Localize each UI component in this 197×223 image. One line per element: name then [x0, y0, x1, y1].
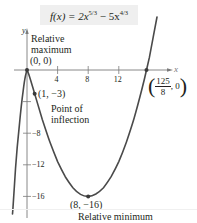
inflection-point [33, 92, 37, 96]
x-intercept-point [145, 68, 149, 72]
right-paren: ) [180, 73, 187, 98]
relative-maximum-coords: (0, 0) [30, 55, 52, 66]
x-axis-label: x [174, 64, 178, 75]
inflection-coords: (1, −3) [38, 88, 65, 99]
relative-minimum-point [86, 194, 90, 198]
inflection-label-line1: Point of [51, 103, 83, 114]
relative-maximum-label-line2: maximum [31, 44, 72, 55]
fraction-denominator: 8 [161, 87, 166, 97]
relative-minimum-label: Relative minimum [78, 211, 153, 222]
fraction: 1258 [155, 76, 171, 97]
plot-area [0, 0, 197, 223]
x-axis-arrow-icon [167, 68, 173, 71]
y-tick-label-minus-16: −16 [32, 192, 45, 201]
x-tick-label-8: 8 [85, 75, 89, 84]
relative-maximum-label-line1: Relative [31, 33, 64, 44]
x-intercept-label: (1258, 0) [148, 75, 187, 97]
y-tick-label-minus-12: −12 [32, 160, 45, 169]
inflection-label-line2: inflection [51, 114, 89, 125]
left-paren: ( [148, 73, 155, 98]
divider [0, 209, 197, 210]
relative-maximum-point [25, 68, 29, 72]
x-intercept-rest: , 0 [171, 81, 180, 91]
fraction-numerator: 125 [155, 76, 171, 87]
y-axis-label: y [22, 25, 26, 36]
y-tick-label-minus-8: −8 [32, 129, 41, 138]
x-tick-label-4: 4 [55, 75, 59, 84]
x-tick-label-12: 12 [114, 75, 122, 84]
